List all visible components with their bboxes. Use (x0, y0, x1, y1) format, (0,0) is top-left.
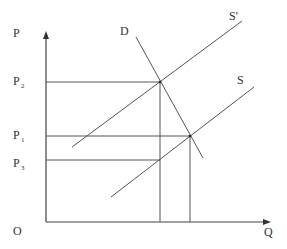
supply-curve (111, 87, 254, 197)
supply-shifted-label: S' (229, 9, 238, 23)
p1-main: P (13, 128, 20, 142)
equilibrium-point-e1 (189, 135, 192, 138)
price-label-p1: P 1 (13, 128, 25, 144)
quantity-label: Q (264, 225, 273, 239)
supply-shifted-curve (72, 21, 242, 147)
price-label-p2: P 2 (13, 74, 25, 90)
y-axis-label: P (13, 26, 20, 40)
demand-label: D (120, 24, 129, 38)
p1-sub: 1 (21, 136, 25, 144)
supply-demand-diagram: P O P 2 P 1 P 3 D S' S Q (0, 0, 287, 249)
demand-curve (136, 37, 203, 158)
supply-label: S (237, 73, 244, 87)
price-label-p3: P 3 (13, 156, 25, 172)
equilibrium-point-e2 (159, 81, 162, 84)
origin-label: O (13, 224, 22, 238)
p3-main: P (13, 156, 20, 170)
p2-main: P (13, 74, 20, 88)
y-axis-arrow-icon (43, 31, 49, 39)
p2-sub: 2 (21, 82, 25, 90)
axes (43, 31, 271, 225)
p3-sub: 3 (21, 164, 25, 172)
